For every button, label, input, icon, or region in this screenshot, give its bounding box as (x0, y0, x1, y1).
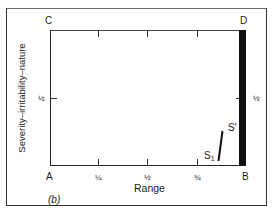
s1-s-prime-line (0, 0, 272, 212)
